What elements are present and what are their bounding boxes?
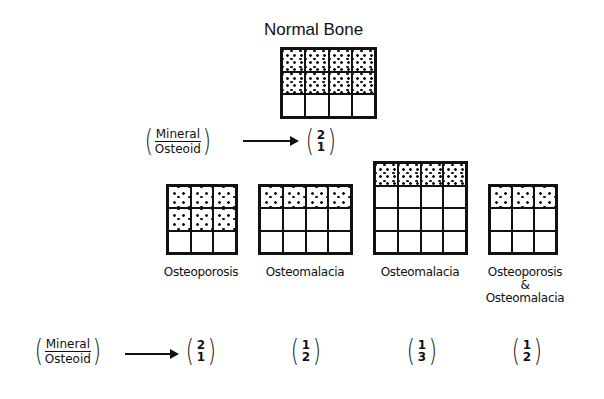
ratio-osteoporosis: ( 2 1 ) <box>184 336 218 366</box>
mineral-cell <box>260 186 283 208</box>
osteoid-cell <box>260 208 283 230</box>
mineral-cell <box>283 186 306 208</box>
osteoid-cell <box>306 208 329 230</box>
osteoid-cell <box>282 94 305 117</box>
osteoid-cell <box>534 208 556 230</box>
osteoid-cell <box>305 94 328 117</box>
mineral-cell <box>213 208 236 230</box>
osteoid-cell <box>421 186 444 209</box>
osteoid-cell <box>421 231 444 254</box>
label-osteoporosis-osteomalacia: Osteoporosis & Osteomalacia <box>475 265 575 305</box>
mineral-cell <box>329 49 352 72</box>
label-osteoporosis: Osteoporosis <box>151 265 251 279</box>
mineral-cell <box>512 186 534 208</box>
ratio-osteomalacia-1: ( 1 2 ) <box>289 336 323 366</box>
osteoporosis-grid <box>166 184 238 255</box>
ratio-osteoporosis-osteomalacia: ( 1 2 ) <box>510 336 544 366</box>
mineral-cell <box>168 186 191 208</box>
ratio-numerator: Mineral <box>155 127 201 142</box>
mineral-cell <box>306 186 329 208</box>
mineral-cell <box>375 163 398 186</box>
normal-ratio: ( 2 1 ) <box>304 126 338 156</box>
arrow-icon <box>243 140 297 142</box>
osteoid-cell <box>398 231 421 254</box>
mineral-cell <box>168 208 191 230</box>
osteoid-cell <box>443 208 466 231</box>
label-osteomalacia-1: Osteomalacia <box>253 265 357 279</box>
osteoid-cell <box>283 231 306 253</box>
osteoid-cell <box>260 231 283 253</box>
diagram-title: Normal Bone <box>264 20 363 40</box>
osteoid-cell <box>490 208 512 230</box>
mineral-cell <box>352 72 375 95</box>
osteoid-cell <box>191 231 214 253</box>
mineral-cell <box>328 186 351 208</box>
osteoid-cell <box>329 94 352 117</box>
mineral-cell <box>213 186 236 208</box>
mineral-cell <box>534 186 556 208</box>
mineral-cell <box>490 186 512 208</box>
osteoid-cell <box>328 231 351 253</box>
osteoid-cell <box>375 231 398 254</box>
osteoid-cell <box>443 186 466 209</box>
osteoporosis-osteomalacia-grid <box>488 184 558 255</box>
arrow-icon <box>125 353 177 355</box>
mineral-cell <box>282 49 305 72</box>
mineral-cell <box>352 49 375 72</box>
osteomalacia-grid-2 <box>373 161 468 255</box>
label-osteomalacia-2: Osteomalacia <box>368 265 472 279</box>
osteoid-cell <box>421 208 444 231</box>
osteoid-cell <box>490 231 512 253</box>
osteoid-cell <box>398 186 421 209</box>
mineral-cell <box>305 49 328 72</box>
osteoid-cell <box>306 231 329 253</box>
mineral-cell <box>191 186 214 208</box>
osteoid-cell <box>375 186 398 209</box>
normal-bone-grid <box>280 47 377 119</box>
osteoid-cell <box>398 208 421 231</box>
mineral-cell <box>329 72 352 95</box>
osteoid-cell <box>512 208 534 230</box>
osteoid-cell <box>213 231 236 253</box>
osteoid-cell <box>512 231 534 253</box>
osteoid-cell <box>352 94 375 117</box>
mineral-cell <box>305 72 328 95</box>
osteoid-cell <box>168 231 191 253</box>
mineral-cell <box>191 208 214 230</box>
osteoid-cell <box>443 231 466 254</box>
ratio-osteomalacia-2: ( 1 3 ) <box>405 336 439 366</box>
osteoid-cell <box>283 208 306 230</box>
mineral-cell <box>443 163 466 186</box>
osteomalacia-grid-1 <box>258 184 353 255</box>
ratio-label-bottom: ( Mineral Osteoid ) <box>33 336 103 366</box>
osteoid-cell <box>328 208 351 230</box>
osteoid-cell <box>375 208 398 231</box>
mineral-cell <box>398 163 421 186</box>
mineral-cell <box>421 163 444 186</box>
mineral-cell <box>282 72 305 95</box>
osteoid-cell <box>534 231 556 253</box>
ratio-label-top: ( Mineral Osteoid ) <box>143 126 213 156</box>
ratio-denominator: Osteoid <box>155 142 201 156</box>
